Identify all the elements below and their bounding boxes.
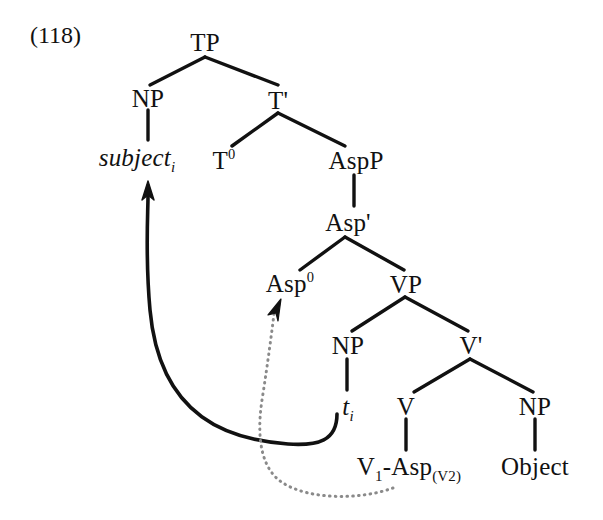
node-np-object: NP (519, 394, 551, 419)
example-number: (118) (30, 23, 81, 47)
node-asp-zero: Asp0 (266, 271, 314, 296)
branch-vp-vbar (405, 297, 468, 331)
node-asp-bar: Asp' (325, 210, 371, 235)
branch-aspbar-vp (345, 237, 404, 270)
branch-vp-np (352, 297, 405, 331)
branch-vbar-npobj (470, 359, 533, 392)
branch-tp-tbar (205, 57, 278, 85)
tree-branches-canvas (0, 0, 603, 520)
branch-tbar-t0 (232, 113, 278, 146)
tree-branch-lines (148, 57, 535, 450)
node-v-bar: V' (460, 333, 483, 358)
node-t-zero-base: T (213, 147, 228, 174)
terminal-verb-complex-asp-index: (V2) (432, 468, 461, 484)
branch-tp-np (150, 57, 205, 85)
node-tp: TP (190, 30, 220, 55)
terminal-subject-index: i (171, 159, 175, 175)
node-v-head: V (397, 394, 415, 419)
branch-vbar-v (414, 359, 470, 392)
node-np-trace: NP (332, 333, 364, 358)
subject-movement-arrow (142, 181, 337, 444)
node-t-bar: T' (268, 88, 288, 113)
terminal-verb-complex-v: V (357, 453, 375, 480)
terminal-trace-index: i (349, 408, 353, 424)
terminal-verb-complex: V1-Asp(V2) (357, 454, 462, 479)
branch-aspbar-asp0 (300, 237, 345, 270)
subject-movement-path (147, 196, 337, 444)
terminal-verb-complex-asp: -Asp (383, 453, 432, 480)
terminal-verb-complex-v-index: 1 (375, 468, 383, 484)
head-movement-arrowhead (268, 299, 281, 321)
node-t-zero: T0 (213, 148, 236, 173)
terminal-trace: ti (342, 394, 354, 419)
terminal-subject: subjecti (99, 145, 176, 170)
node-np-subject: NP (132, 86, 164, 111)
node-vp: VP (390, 272, 422, 297)
node-aspp: AspP (329, 148, 384, 173)
terminal-subject-text: subject (99, 144, 171, 171)
branch-tbar-aspp (278, 113, 345, 146)
node-asp-zero-superscript: 0 (307, 269, 314, 285)
terminal-object: Object (501, 454, 569, 479)
syntax-tree-figure: (118) TP NP T' subjecti T0 AspP Asp' Asp… (0, 0, 603, 520)
node-asp-zero-base: Asp (266, 270, 307, 297)
node-t-zero-superscript: 0 (228, 146, 235, 162)
